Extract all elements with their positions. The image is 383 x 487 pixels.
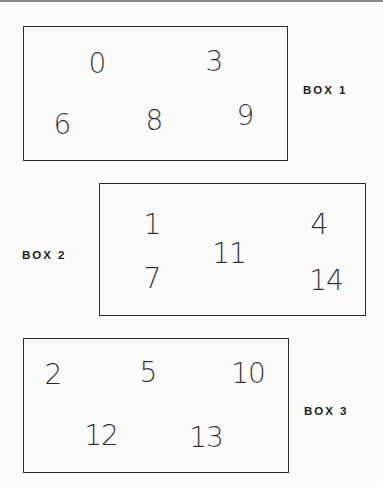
box-2-number: 14 — [309, 267, 343, 295]
box-2-number: 4 — [311, 211, 328, 239]
box-2-label: BOX 2 — [22, 249, 67, 261]
top-border-line — [0, 0, 383, 2]
box-3-number: 12 — [84, 422, 118, 450]
box-3-number: 10 — [231, 360, 265, 388]
box-2-number: 11 — [212, 240, 246, 268]
box-2-number: 7 — [144, 265, 161, 293]
box-3-number: 2 — [45, 361, 62, 389]
box-2-number: 1 — [144, 211, 161, 239]
box-1-number: 8 — [146, 107, 163, 135]
box-3-number: 5 — [140, 359, 157, 387]
box-1-number: 9 — [237, 102, 254, 130]
box-1-number: 0 — [89, 50, 106, 78]
box-3-number: 13 — [189, 424, 223, 452]
box-1-label: BOX 1 — [303, 84, 348, 96]
box-3-label: BOX 3 — [304, 405, 349, 417]
box-1-number: 6 — [54, 111, 71, 139]
box-1-number: 3 — [206, 48, 223, 76]
